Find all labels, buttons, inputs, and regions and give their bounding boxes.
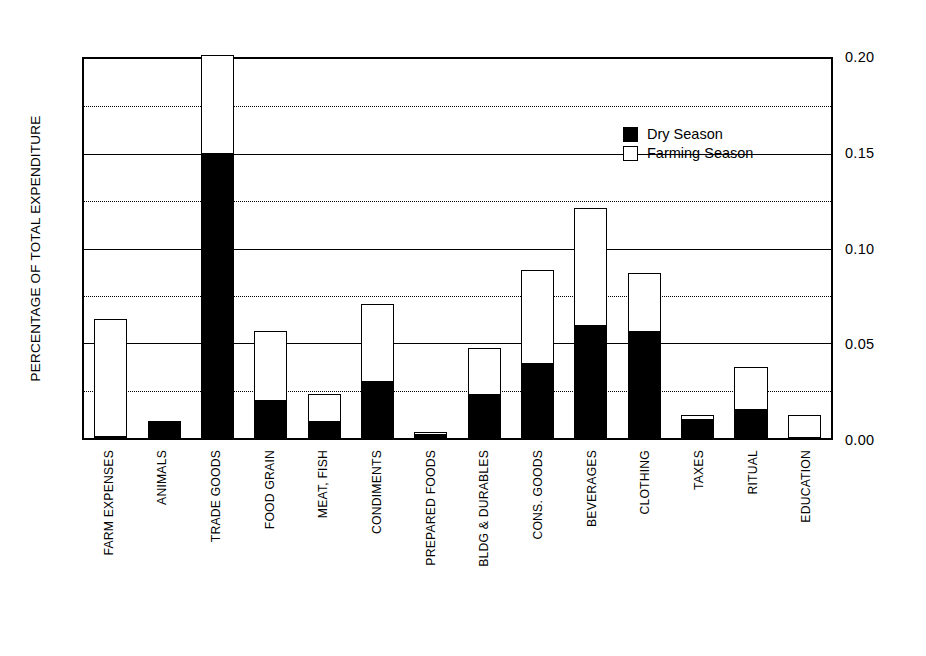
x-label-slot: CONDIMENTS: [350, 444, 404, 644]
bar-slot: [84, 59, 137, 438]
bar-segment-dry-season: [468, 394, 501, 438]
legend-swatch-farming-season-icon: [623, 146, 638, 161]
x-label-slot: EDUCATION: [779, 444, 833, 644]
legend-item-farming-season: Farming Season: [623, 145, 753, 161]
x-label-slot: CLOTHING: [618, 444, 672, 644]
y-axis-tick-label: 0.05: [845, 336, 874, 352]
bar-slot: [244, 59, 297, 438]
x-axis-tick-label: FARM EXPENSES: [102, 450, 116, 556]
bar-segment-dry-season: [681, 419, 714, 438]
bar-segment-dry-season: [148, 421, 181, 438]
chart-figure: PERCENTAGE OF TOTAL EXPENDITURE 0.000.05…: [0, 0, 926, 656]
bar-segment-farming-season: [788, 415, 821, 438]
x-axis-tick-label: CLOTHING: [638, 450, 652, 515]
x-label-slot: RITUAL: [726, 444, 780, 644]
legend-swatch-dry-season-icon: [623, 127, 638, 142]
bar-segment-dry-season: [94, 436, 127, 438]
x-label-slot: TRADE GOODS: [189, 444, 243, 644]
legend-item-dry-season: Dry Season: [623, 126, 753, 142]
bar-slot: [137, 59, 190, 438]
stacked-bar[interactable]: [201, 55, 234, 438]
bar-segment-dry-season: [521, 363, 554, 438]
x-axis-tick-label: MEAT, FISH: [316, 450, 330, 518]
y-axis-tick-label: 0.15: [845, 145, 874, 161]
y-axis-title: PERCENTAGE OF TOTAL EXPENDITURE: [22, 57, 48, 440]
y-axis-tick-label: 0.00: [845, 432, 874, 448]
bar-slot: [458, 59, 511, 438]
bar-segment-farming-season: [361, 304, 394, 381]
bar-segment-farming-season: [254, 331, 287, 400]
x-axis-tick-label: CONS. GOODS: [531, 450, 545, 540]
bar-segment-farming-season: [628, 273, 661, 330]
x-label-slot: BLDG & DURABLES: [457, 444, 511, 644]
bar-slot: [618, 59, 671, 438]
x-axis-tick-label: ANIMALS: [155, 450, 169, 505]
x-label-slot: FARM EXPENSES: [82, 444, 136, 644]
x-axis-tick-label: BEVERAGES: [585, 450, 599, 527]
bar-segment-dry-season: [414, 434, 447, 438]
stacked-bar[interactable]: [788, 415, 821, 438]
x-axis-tick-label: TAXES: [692, 450, 706, 490]
bar-segment-farming-season: [734, 367, 767, 409]
bar-slot: [564, 59, 617, 438]
bar-segment-dry-season: [201, 153, 234, 438]
stacked-bar[interactable]: [94, 319, 127, 438]
stacked-bar[interactable]: [574, 208, 607, 438]
stacked-bar[interactable]: [254, 331, 287, 438]
x-label-slot: BEVERAGES: [565, 444, 619, 644]
y-axis-tick-label: 0.10: [845, 241, 874, 257]
stacked-bar[interactable]: [414, 432, 447, 438]
bar-segment-dry-season: [628, 331, 661, 438]
x-axis-tick-label: PREPARED FOODS: [424, 450, 438, 566]
x-axis-tick-label: RITUAL: [746, 450, 760, 495]
bars-group: [84, 59, 831, 438]
x-axis-tick-label: EDUCATION: [799, 450, 813, 523]
x-label-slot: PREPARED FOODS: [404, 444, 458, 644]
y-axis-tick-label: 0.20: [845, 49, 874, 65]
x-axis-tick-labels: FARM EXPENSESANIMALSTRADE GOODSFOOD GRAI…: [82, 444, 833, 644]
bar-slot: [671, 59, 724, 438]
bar-segment-dry-season: [361, 381, 394, 438]
bar-segment-farming-season: [521, 270, 554, 364]
x-label-slot: TAXES: [672, 444, 726, 644]
x-axis-tick-label: FOOD GRAIN: [263, 450, 277, 529]
legend: Dry Season Farming Season: [623, 126, 753, 161]
stacked-bar[interactable]: [148, 421, 181, 438]
x-label-slot: ANIMALS: [136, 444, 190, 644]
x-label-slot: MEAT, FISH: [297, 444, 351, 644]
stacked-bar[interactable]: [734, 367, 767, 438]
x-label-slot: FOOD GRAIN: [243, 444, 297, 644]
bar-segment-farming-season: [468, 348, 501, 394]
bar-segment-farming-season: [574, 208, 607, 325]
plot-area: [82, 57, 833, 440]
bar-segment-dry-season: [254, 400, 287, 438]
x-axis-tick-label: BLDG & DURABLES: [477, 450, 491, 567]
bar-slot: [351, 59, 404, 438]
x-axis-tick-label: CONDIMENTS: [370, 450, 384, 534]
bar-segment-farming-season: [94, 319, 127, 436]
bar-slot: [297, 59, 350, 438]
stacked-bar[interactable]: [308, 394, 341, 438]
x-label-slot: CONS. GOODS: [511, 444, 565, 644]
bar-segment-dry-season: [734, 409, 767, 438]
x-axis-tick-label: TRADE GOODS: [209, 450, 223, 542]
stacked-bar[interactable]: [681, 415, 714, 438]
stacked-bar[interactable]: [468, 348, 501, 438]
bar-slot: [778, 59, 831, 438]
legend-label-dry-season: Dry Season: [647, 126, 723, 142]
bar-slot: [404, 59, 457, 438]
bar-slot: [191, 59, 244, 438]
stacked-bar[interactable]: [628, 273, 661, 438]
bar-segment-dry-season: [308, 421, 341, 438]
stacked-bar[interactable]: [521, 270, 554, 439]
stacked-bar[interactable]: [361, 304, 394, 438]
bar-segment-dry-season: [574, 325, 607, 438]
bar-segment-farming-season: [201, 55, 234, 153]
bar-slot: [724, 59, 777, 438]
bar-slot: [511, 59, 564, 438]
legend-label-farming-season: Farming Season: [647, 145, 753, 161]
bar-segment-farming-season: [308, 394, 341, 421]
